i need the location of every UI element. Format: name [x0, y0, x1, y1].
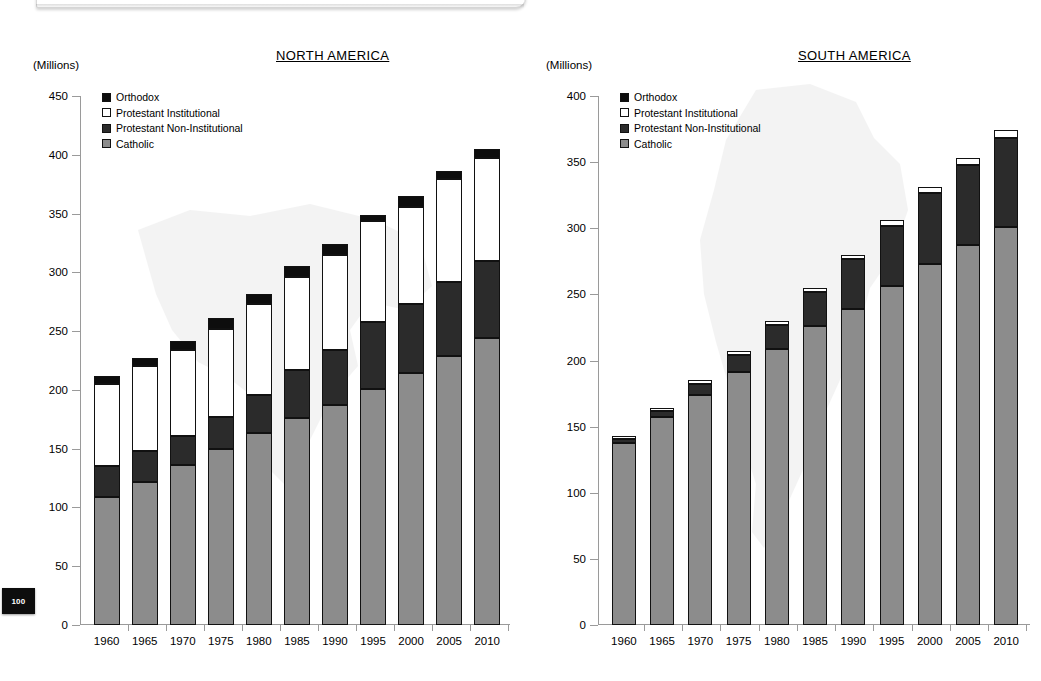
bar-segment-protestant-non-institutional [94, 466, 120, 497]
legend-label-orthodox: Orthodox [634, 92, 677, 103]
y-axis-tick [590, 162, 598, 163]
legend-label-orthodox: Orthodox [116, 92, 159, 103]
y-axis-tick [590, 559, 598, 560]
y-axis-tick-label: 200 [567, 355, 586, 367]
y-axis-tick-label: 250 [567, 288, 586, 300]
bar-segment-protestant-institutional [956, 158, 980, 165]
legend-south-america: Orthodox Protestant Institutional Protes… [620, 92, 761, 154]
y-axis-line-na [80, 96, 81, 625]
bar-segment-catholic [436, 356, 462, 625]
x-axis-tick [166, 625, 167, 631]
bar-segment-protestant-non-institutional [727, 355, 751, 372]
bar-segment-protestant-institutional [727, 351, 751, 355]
legend-north-america: Orthodox Protestant Institutional Protes… [102, 92, 243, 154]
bar-segment-protestant-non-institutional [436, 282, 462, 356]
y-axis-tick-label: 300 [49, 266, 68, 278]
y-axis-tick [72, 449, 80, 450]
bar-segment-catholic [994, 227, 1018, 625]
bar-segment-protestant-non-institutional [360, 322, 386, 389]
chart-title-south-america: SOUTH AMERICA [798, 48, 911, 63]
bar-segment-catholic [688, 395, 712, 625]
y-axis-tick [72, 96, 80, 97]
bar-segment-protestant-institutional [474, 158, 500, 260]
bar-segment-protestant-non-institutional [880, 226, 904, 287]
bar-segment-protestant-non-institutional [765, 325, 789, 349]
y-axis-tick [590, 493, 598, 494]
bar-segment-protestant-institutional [688, 380, 712, 384]
legend-swatch-protestant-non-institutional-icon [620, 124, 629, 133]
bar-segment-protestant-non-institutional [246, 395, 272, 434]
x-axis-tick [720, 625, 721, 631]
x-axis-tick-label: 2000 [398, 635, 424, 647]
bar-segment-protestant-non-institutional [170, 436, 196, 465]
x-axis-tick-label: 1965 [649, 635, 675, 647]
bar-segment-catholic [841, 309, 865, 625]
x-axis-tick-label: 1990 [841, 635, 867, 647]
y-axis-tick-label: 100 [49, 501, 68, 513]
y-axis-tick-label: 50 [55, 560, 68, 572]
x-axis-tick [988, 625, 989, 631]
x-axis-tick-label: 1985 [802, 635, 828, 647]
bar-segment-protestant-non-institutional [688, 384, 712, 395]
legend-label-catholic: Catholic [116, 139, 154, 150]
bar-segment-orthodox [322, 244, 348, 255]
y-axis-units-label-na: (Millions) [33, 59, 79, 71]
y-axis-tick-label: 450 [49, 90, 68, 102]
y-axis-tick-label: 150 [567, 421, 586, 433]
legend-item-protestant-institutional: Protestant Institutional [620, 108, 761, 119]
legend-label-protestant-non-institutional: Protestant Non-Institutional [634, 123, 761, 134]
bar-segment-catholic [246, 433, 272, 625]
bar-segment-protestant-institutional [246, 304, 272, 395]
bar-segment-protestant-institutional [94, 384, 120, 466]
x-axis-tick-label: 1960 [94, 635, 120, 647]
legend-swatch-protestant-institutional-icon [620, 108, 629, 117]
x-axis-tick [432, 625, 433, 631]
bar-segment-protestant-institutional [612, 436, 636, 439]
bar-segment-orthodox [436, 171, 462, 179]
x-axis-tick [950, 625, 951, 631]
x-axis-tick-label: 1995 [360, 635, 386, 647]
document-card-shadow [36, 4, 524, 8]
bar-segment-catholic [612, 443, 636, 626]
y-axis-tick-label: 300 [567, 222, 586, 234]
bar-segment-protestant-non-institutional [474, 261, 500, 339]
legend-item-protestant-non-institutional: Protestant Non-Institutional [102, 123, 243, 134]
x-axis-tick [242, 625, 243, 631]
legend-swatch-orthodox-icon [620, 93, 629, 102]
y-axis-tick-label: 0 [62, 619, 68, 631]
bar-segment-catholic [650, 417, 674, 625]
x-axis-tick-label: 1970 [688, 635, 714, 647]
bar-segment-catholic [360, 389, 386, 625]
bar-segment-catholic [94, 497, 120, 625]
bar-segment-catholic [322, 405, 348, 625]
bar-segment-catholic [208, 449, 234, 625]
x-axis-tick-label: 2010 [993, 635, 1019, 647]
bar-segment-catholic [398, 373, 424, 625]
y-axis-tick [72, 625, 80, 626]
y-axis-tick-label: 400 [49, 149, 68, 161]
x-axis-tick-label: 1960 [611, 635, 637, 647]
legend-label-protestant-non-institutional: Protestant Non-Institutional [116, 123, 243, 134]
legend-swatch-protestant-institutional-icon [102, 108, 111, 117]
x-axis-tick-label: 1995 [879, 635, 905, 647]
bar-segment-protestant-institutional [132, 366, 158, 451]
x-axis-tick [759, 625, 760, 631]
y-axis-tick [72, 214, 80, 215]
x-axis-tick-label: 2005 [955, 635, 981, 647]
bar-segment-protestant-non-institutional [994, 138, 1018, 227]
x-axis-tick-label: 1965 [132, 635, 158, 647]
bar-segment-protestant-non-institutional [803, 292, 827, 326]
x-axis-tick-label: 1980 [764, 635, 790, 647]
x-axis-tick-label: 1975 [208, 635, 234, 647]
bar-segment-catholic [880, 286, 904, 625]
legend-item-orthodox: Orthodox [620, 92, 761, 103]
y-axis-tick [72, 390, 80, 391]
bar-segment-protestant-non-institutional [398, 304, 424, 373]
bar-segment-protestant-institutional [650, 408, 674, 411]
y-axis-tick [72, 155, 80, 156]
y-axis-tick [72, 566, 80, 567]
x-axis-tick [204, 625, 205, 631]
x-axis-tick [318, 625, 319, 631]
bar-segment-protestant-institutional [803, 288, 827, 292]
bar-segment-orthodox [284, 266, 310, 277]
